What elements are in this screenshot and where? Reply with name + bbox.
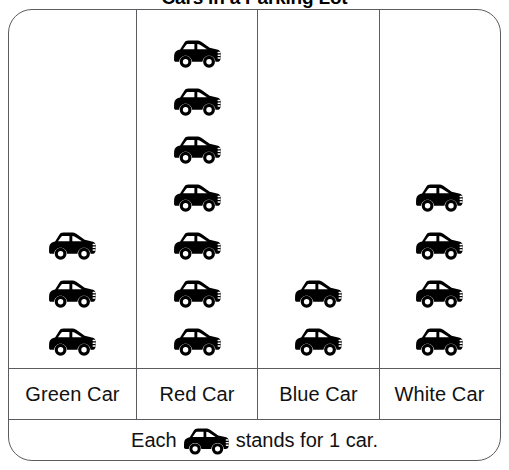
car-icon [174,173,221,221]
car-icon [49,269,96,317]
car-icon [174,77,221,125]
pictograph-column-red-car [136,10,257,368]
car-icon [49,317,96,365]
page-title: Cars in a Parking Lot [0,0,509,9]
pictograph-column-blue-car [257,10,379,368]
category-label-red-car: Red Car [136,369,257,419]
car-icon [295,269,342,317]
car-icon [416,173,463,221]
legend-prefix-label: Each [131,429,177,452]
category-label-blue-car: Blue Car [257,369,379,419]
pictograph-column-white-car [379,10,499,368]
car-icon [295,317,342,365]
category-label-row: Green Car Red Car Blue Car White Car [9,368,500,419]
legend-key-row: Each stands for 1 car. [9,419,500,460]
pictograph-column-green-car [9,10,136,368]
pictograph-table: Green Car Red Car Blue Car White Car Eac… [8,9,501,461]
car-icon [49,221,96,269]
car-icon [416,317,463,365]
car-icon [416,221,463,269]
car-icon [174,221,221,269]
plot-area [9,10,500,368]
car-icon [174,29,221,77]
car-icon [184,426,229,455]
car-icon [174,317,221,365]
car-icon [416,269,463,317]
category-label-green-car: Green Car [9,369,136,419]
car-icon [174,125,221,173]
legend-suffix-label: stands for 1 car. [236,429,378,452]
car-icon [174,269,221,317]
category-label-white-car: White Car [379,369,499,419]
